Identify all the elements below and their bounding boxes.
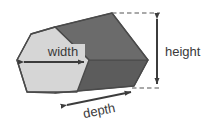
height-label: height [165,44,201,59]
height-dimension: height [157,19,201,84]
depth-label: depth [82,100,117,120]
diagram-figure: width height depth [0,0,201,120]
depth-dimension: depth [67,92,131,120]
width-label: width [47,44,78,59]
hexagonal-prism-diagram: width height depth [0,0,201,120]
